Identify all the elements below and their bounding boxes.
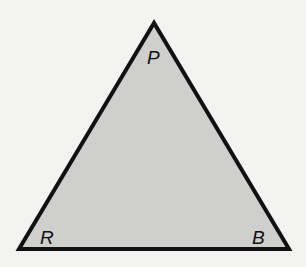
vertex-label-r: R — [40, 227, 54, 248]
triangle-diagram: P R B — [0, 0, 306, 267]
vertex-label-p: P — [147, 47, 160, 68]
vertex-label-b: B — [252, 227, 265, 248]
